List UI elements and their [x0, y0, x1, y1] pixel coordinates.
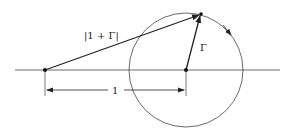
origin-point [43, 68, 47, 72]
one-plus-gamma-vector [45, 15, 199, 70]
rotation-arrow-stem [223, 25, 231, 35]
gamma-tip-point [199, 12, 203, 16]
center-point [184, 68, 188, 72]
unit-distance-label: 1 [112, 85, 118, 96]
gamma-label: Γ [200, 42, 207, 53]
magnitude-label: |1 + Γ| [84, 30, 119, 42]
reflection-coefficient-diagram: |1 + Γ| Γ 1 [0, 0, 292, 140]
gamma-vector [186, 16, 200, 70]
